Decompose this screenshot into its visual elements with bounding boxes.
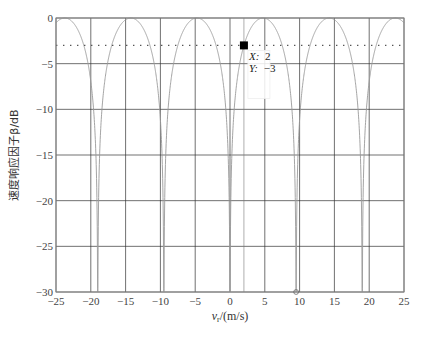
- datatip-y-key: Y:: [249, 62, 258, 74]
- y-tick-label: −30: [36, 286, 54, 298]
- x-tick-label: −15: [117, 295, 135, 307]
- y-tick-label: −15: [36, 149, 54, 161]
- y-tick-label: −10: [36, 103, 54, 115]
- datatip-y-value: −3: [264, 62, 276, 74]
- x-tick-label: −10: [152, 295, 170, 307]
- x-tick-label: 25: [399, 295, 411, 307]
- y-axis-label: 速度响应因子β/dB: [7, 109, 21, 200]
- x-tick-label: −20: [82, 295, 100, 307]
- x-tick-label: 20: [364, 295, 376, 307]
- y-axis-ticks: 0−5−10−15−20−25−30: [36, 12, 54, 298]
- x-tick-label: −5: [189, 295, 201, 307]
- x-axis-label: vr/(m/s): [212, 309, 249, 324]
- datatip-x-label: X: 2: [248, 50, 271, 62]
- x-tick-label: 15: [329, 295, 341, 307]
- y-tick-label: 0: [48, 12, 54, 24]
- y-tick-label: −5: [41, 58, 53, 70]
- x-tick-label: 10: [294, 295, 306, 307]
- datatip-marker[interactable]: [240, 41, 248, 49]
- datatip-x-key: X:: [248, 50, 259, 62]
- datatip-x-value: 2: [265, 50, 271, 62]
- y-tick-label: −20: [36, 195, 54, 207]
- x-tick-label: 0: [227, 295, 233, 307]
- x-axis-ticks: −25−20−15−10−50510152025: [47, 295, 410, 307]
- x-axis-label-units: /(m/s): [220, 309, 249, 323]
- velocity-response-chart: −25−20−15−10−50510152025 0−5−10−15−20−25…: [0, 0, 422, 339]
- y-tick-label: −25: [36, 240, 54, 252]
- x-tick-label: 5: [262, 295, 268, 307]
- data-tip[interactable]: X: 2 Y: −3: [240, 41, 276, 98]
